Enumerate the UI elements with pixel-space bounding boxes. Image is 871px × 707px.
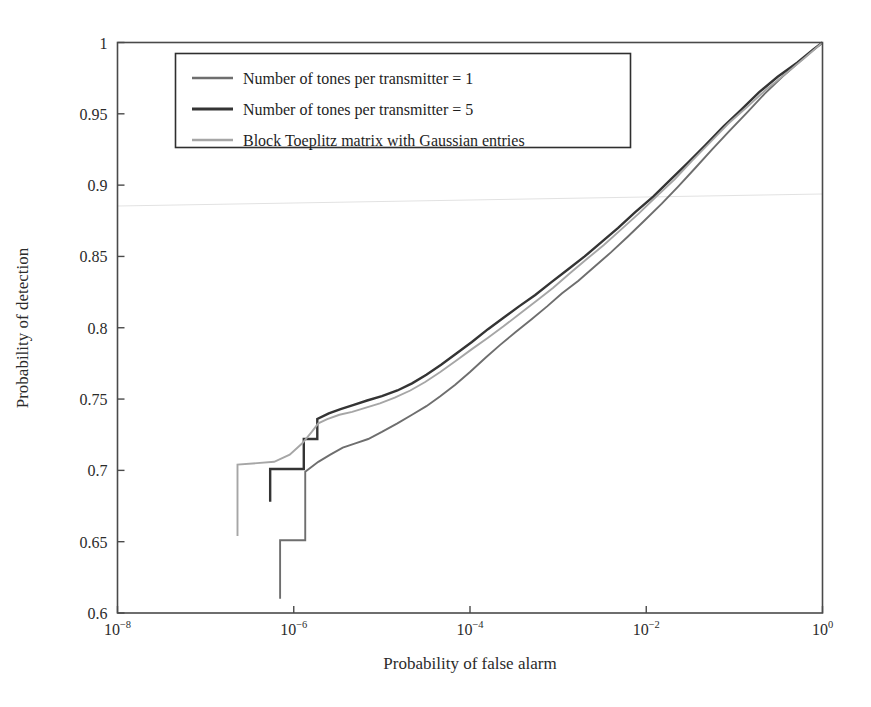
y-tick-label: 0.75 <box>80 391 108 408</box>
y-tick-label: 0.6 <box>88 605 108 622</box>
y-tick-label: 0.65 <box>80 534 108 551</box>
y-tick-label: 0.85 <box>80 248 108 265</box>
y-tick-label: 0.7 <box>88 462 108 479</box>
y-tick-label: 0.9 <box>88 177 108 194</box>
y-tick-label: 0.8 <box>88 320 108 337</box>
y-tick-label: 1 <box>100 35 108 52</box>
y-tick-label: 0.95 <box>80 106 108 123</box>
legend-label-2: Number of tones per transmitter = 5 <box>243 101 473 119</box>
x-axis-title: Probability of false alarm <box>383 654 556 673</box>
legend-label-3: Block Toeplitz matrix with Gaussian entr… <box>243 132 525 150</box>
legend-label-1: Number of tones per transmitter = 1 <box>243 70 473 88</box>
y-axis-title: Probability of detection <box>13 247 32 408</box>
chart-legend[interactable]: Number of tones per transmitter = 1Numbe… <box>176 54 631 151</box>
chart-figure: 10−810−610−410−2100 0.60.650.70.750.80.8… <box>0 0 871 707</box>
